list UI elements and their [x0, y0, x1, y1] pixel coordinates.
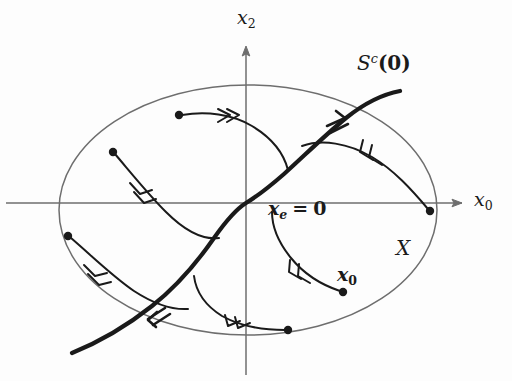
trajectory-start-dot — [426, 207, 434, 215]
diagram-canvas — [0, 0, 512, 381]
equilibrium-label-relation: = — [287, 197, 313, 219]
trajectory-arrow-chevrons — [84, 265, 111, 285]
initial-condition-label-base: x — [337, 263, 348, 285]
axis-label-x2: x2 — [237, 8, 256, 30]
phase-portrait-figure: x2 x0 Sc(0) xe=0 X x0 — [0, 0, 512, 381]
axis-label-x0-base: x — [474, 188, 485, 210]
center-manifold-curve — [72, 91, 400, 353]
equilibrium-label-base: x — [268, 197, 279, 219]
trajectory-bottom-6 — [194, 276, 292, 334]
x2-axis-arrowhead — [242, 46, 250, 56]
trajectory-arrow-chevrons — [289, 260, 310, 283]
initial-condition-label: x0 — [337, 265, 357, 287]
manifold-label-paren-close: ) — [401, 51, 410, 75]
trajectory-start-dot — [64, 232, 72, 240]
manifold-label-superscript: c — [371, 51, 378, 66]
trajectory-path — [272, 212, 340, 291]
trajectory-path — [115, 154, 219, 238]
trajectory-path — [182, 113, 288, 170]
manifold-label-base: S — [357, 51, 371, 75]
trajectory-upper-left-1 — [175, 109, 288, 170]
trajectory-start-dot — [109, 148, 117, 156]
manifold-label: Sc(0) — [357, 53, 411, 73]
trajectory-upper-left-2 — [109, 148, 219, 238]
trajectory-lower-right-5 — [272, 212, 347, 296]
axis-horizontal — [6, 199, 462, 207]
equilibrium-label: xe=0 — [268, 199, 326, 221]
manifold-path — [72, 91, 400, 353]
manifold-label-argument: 0 — [387, 51, 401, 75]
axis-label-x2-subscript: 2 — [248, 16, 256, 31]
initial-condition-label-subscript: 0 — [348, 273, 357, 288]
x0-axis-arrowhead — [452, 199, 462, 207]
axis-label-x0-subscript: 0 — [485, 198, 493, 213]
domain-boundary-ellipse — [59, 85, 437, 335]
equilibrium-label-value: 0 — [313, 197, 326, 219]
manifold-label-paren-open: ( — [378, 51, 387, 75]
axis-label-x2-base: x — [237, 6, 248, 28]
trajectory-start-dot — [284, 326, 292, 334]
domain-label: X — [396, 238, 410, 258]
axis-label-x0: x0 — [474, 190, 493, 212]
trajectory-start-dot — [175, 111, 183, 119]
initial-condition-dot — [339, 288, 347, 296]
